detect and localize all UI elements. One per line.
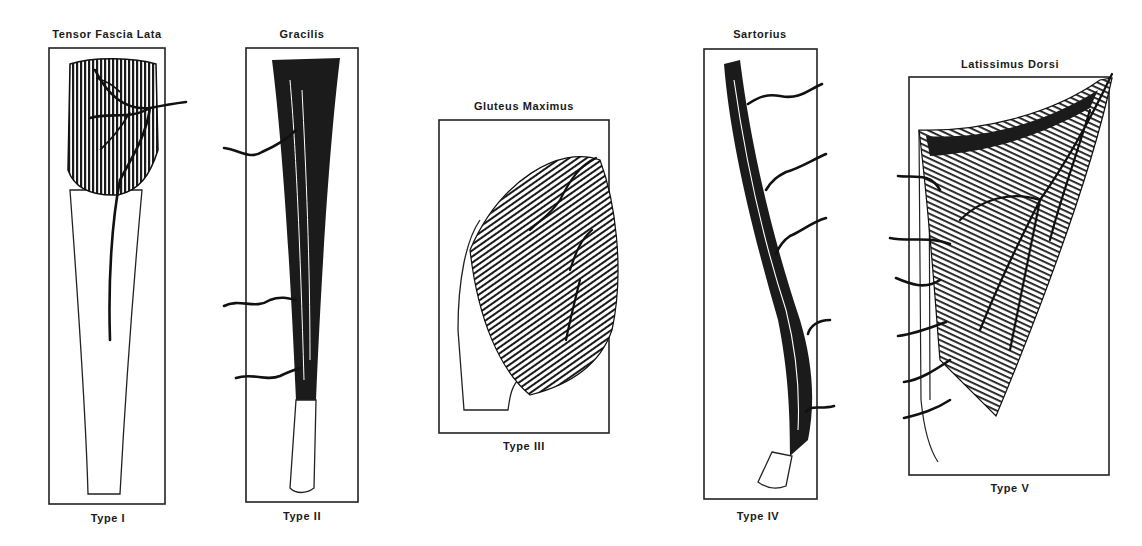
type-caption: Type V xyxy=(960,482,1060,494)
muscle-title: Tensor Fascia Lata xyxy=(30,28,184,40)
type-caption: Type II xyxy=(252,510,352,522)
sartorius-drawing xyxy=(704,49,834,499)
muscle-title: Latissimus Dorsi xyxy=(930,58,1090,70)
latissimus-dorsi-drawing xyxy=(890,74,1112,475)
type-caption: Type III xyxy=(474,440,574,452)
muscle-title: Sartorius xyxy=(710,28,810,40)
muscle-title: Gluteus Maximus xyxy=(449,100,599,112)
type-caption: Type IV xyxy=(708,510,808,522)
gracilis-drawing xyxy=(224,48,358,502)
gluteus-maximus-drawing xyxy=(439,120,618,433)
muscle-vascular-diagram xyxy=(0,0,1142,546)
tensor-fascia-lata-drawing xyxy=(49,48,186,504)
muscle-title: Gracilis xyxy=(252,28,352,40)
type-caption: Type I xyxy=(60,512,156,524)
